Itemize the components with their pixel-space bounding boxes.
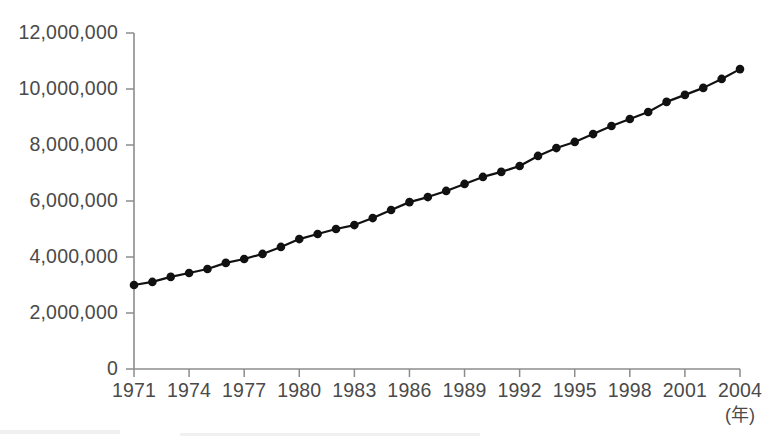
y-axis-ticks bbox=[126, 33, 134, 369]
y-tick-label: 10,000,000 bbox=[18, 77, 118, 99]
x-tick-label: 1983 bbox=[332, 379, 376, 401]
y-axis-tick-labels: 02,000,0004,000,0006,000,0008,000,00010,… bbox=[18, 21, 118, 379]
y-tick-label: 0 bbox=[107, 357, 118, 379]
x-tick-label: 1971 bbox=[112, 379, 156, 401]
data-point-marker bbox=[736, 65, 745, 74]
series-markers bbox=[130, 65, 745, 289]
data-point-marker bbox=[166, 273, 175, 282]
x-tick-label: 1989 bbox=[442, 379, 486, 401]
data-point-marker bbox=[479, 173, 488, 182]
data-point-marker bbox=[203, 265, 212, 274]
data-point-marker bbox=[424, 193, 433, 202]
y-tick-label: 2,000,000 bbox=[29, 301, 118, 323]
x-tick-label: 1998 bbox=[608, 379, 652, 401]
data-point-marker bbox=[240, 255, 249, 264]
x-axis-unit-label: (年) bbox=[725, 405, 755, 425]
y-tick-label: 12,000,000 bbox=[18, 21, 118, 43]
y-tick-label: 6,000,000 bbox=[29, 189, 118, 211]
data-point-marker bbox=[460, 180, 469, 189]
data-point-marker bbox=[681, 91, 690, 100]
x-tick-label: 1986 bbox=[387, 379, 431, 401]
x-tick-label: 1980 bbox=[277, 379, 321, 401]
data-point-marker bbox=[699, 84, 708, 93]
x-axis-ticks bbox=[134, 369, 740, 377]
x-tick-label: 1977 bbox=[222, 379, 266, 401]
x-axis-group: 1971197419771980198319861989199219951998… bbox=[112, 369, 762, 425]
data-point-marker bbox=[258, 250, 267, 259]
data-point-marker bbox=[313, 230, 322, 239]
chart-canvas: 02,000,0004,000,0006,000,0008,000,00010,… bbox=[0, 0, 777, 442]
x-tick-label: 2004 bbox=[718, 379, 762, 401]
data-point-marker bbox=[497, 168, 506, 177]
data-point-marker bbox=[405, 198, 414, 207]
data-point-marker bbox=[662, 98, 671, 107]
data-point-marker bbox=[350, 221, 359, 230]
data-point-marker bbox=[442, 187, 451, 196]
x-tick-label: 1995 bbox=[553, 379, 597, 401]
y-tick-label: 8,000,000 bbox=[29, 133, 118, 155]
data-point-marker bbox=[387, 206, 396, 215]
data-point-marker bbox=[607, 122, 616, 131]
data-point-marker bbox=[515, 162, 524, 171]
data-point-marker bbox=[185, 269, 194, 278]
x-tick-label: 1992 bbox=[498, 379, 542, 401]
data-point-marker bbox=[717, 75, 726, 84]
x-tick-label: 2001 bbox=[663, 379, 707, 401]
data-point-marker bbox=[148, 278, 157, 287]
data-point-marker bbox=[552, 144, 561, 153]
data-point-marker bbox=[332, 225, 341, 234]
data-series-group bbox=[130, 65, 745, 289]
line-chart: 02,000,0004,000,0006,000,0008,000,00010,… bbox=[0, 0, 777, 442]
scan-edge-artifacts bbox=[0, 430, 480, 436]
series-line-population bbox=[134, 69, 740, 285]
y-axis-group: 02,000,0004,000,0006,000,0008,000,00010,… bbox=[18, 21, 134, 379]
data-point-marker bbox=[570, 138, 579, 147]
x-tick-label: 1974 bbox=[167, 379, 211, 401]
data-point-marker bbox=[534, 152, 543, 161]
data-point-marker bbox=[295, 235, 304, 244]
y-tick-label: 4,000,000 bbox=[29, 245, 118, 267]
data-point-marker bbox=[222, 259, 231, 268]
data-point-marker bbox=[589, 130, 598, 139]
data-point-marker bbox=[277, 243, 286, 252]
data-point-marker bbox=[368, 214, 377, 223]
data-point-marker bbox=[626, 115, 635, 124]
x-axis-tick-labels: 1971197419771980198319861989199219951998… bbox=[112, 379, 762, 401]
data-point-marker bbox=[130, 281, 139, 290]
data-point-marker bbox=[644, 108, 653, 117]
